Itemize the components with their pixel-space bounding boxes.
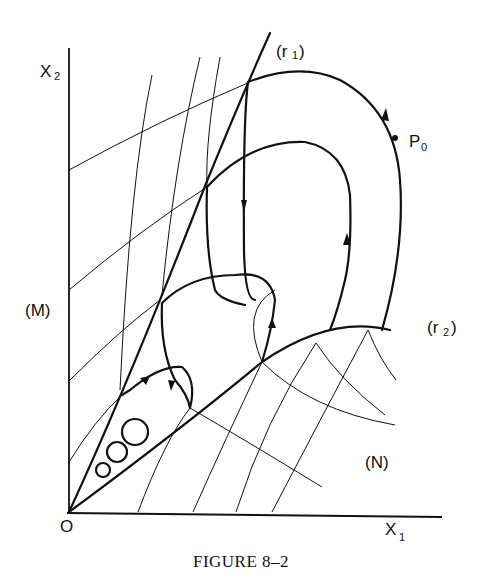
curve-r2: [69, 326, 390, 512]
phase-diagram: X 2 X 1 O (r 1 ) (r 2 ) (M) (N) P 0 FIGU…: [0, 0, 483, 577]
curve-r2-subscript: 2: [443, 326, 449, 338]
family-M-label: (M): [25, 301, 50, 320]
spiral-ring: [122, 419, 148, 445]
middle-trajectory: [207, 142, 350, 330]
x-axis-label: X: [385, 520, 396, 539]
m-curve: [69, 300, 160, 381]
small-loop-down: [162, 303, 190, 408]
x-axis-subscript: 1: [399, 531, 405, 543]
curve-r2-close: ): [451, 318, 457, 337]
n-curve: [236, 343, 385, 512]
family-N-curves: [120, 57, 396, 512]
n-curve-vertical: [162, 57, 200, 295]
outer-trajectory: [248, 71, 401, 330]
inner-down: [207, 187, 245, 305]
point-P0-subscript: 0: [421, 141, 427, 153]
curve-r2-label: (r: [427, 318, 439, 337]
arrow-down-icon: [241, 200, 247, 212]
spiral-ring: [107, 442, 127, 462]
direction-arrows: [140, 108, 389, 391]
n-curve-vertical: [120, 75, 152, 390]
m-curve: [69, 82, 250, 170]
x-axis: [67, 513, 442, 517]
m-curve: [69, 187, 207, 290]
arrow-up-icon: [268, 318, 276, 328]
curve-r1-label: (r: [276, 42, 288, 61]
figure-caption: FIGURE 8–2: [193, 552, 289, 571]
y-axis-subscript: 2: [54, 70, 60, 82]
family-M-curves: [69, 82, 250, 462]
n-curve: [138, 408, 322, 512]
loop-trajectory: [162, 274, 275, 362]
point-P0-label: P: [409, 132, 420, 151]
curve-r1-close: ): [299, 42, 305, 61]
origin-label: O: [60, 517, 73, 536]
family-N-label: (N): [365, 453, 389, 472]
point-P0: [392, 135, 398, 141]
arrow-up-icon: [381, 108, 389, 121]
y-axis-label: X: [40, 62, 51, 81]
curve-r1-subscript: 1: [292, 49, 298, 61]
arrow-down-icon: [168, 380, 175, 391]
n-curve: [193, 362, 395, 512]
spiral-ring: [96, 463, 110, 477]
trajectory-down: [244, 82, 255, 300]
